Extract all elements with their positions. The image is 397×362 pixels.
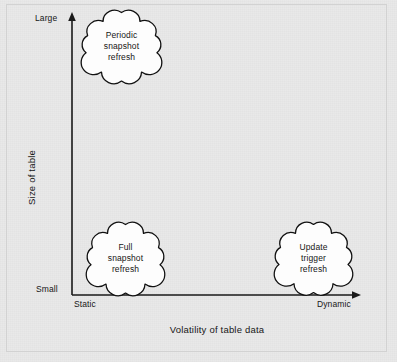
cloud-line-2: snapshot [88,253,163,264]
cloud-line-3: refresh [276,264,351,275]
y-axis-tick-large: Large [35,13,57,23]
cloud-line-1: Periodic [83,30,160,41]
cloud-line-2: snapshot [83,41,160,52]
cloud-label-periodic-snapshot-refresh: Periodic snapshot refresh [83,30,160,63]
x-axis-tick-dynamic: Dynamic [317,299,351,309]
y-axis-title: Size of table [26,128,37,228]
cloud-line-1: Full [88,242,163,253]
cloud-label-full-snapshot-refresh: Full snapshot refresh [88,242,163,275]
cloud-line-1: Update [276,242,351,253]
cloud-line-3: refresh [83,52,160,63]
cloud-line-2: trigger [276,253,351,264]
plot-area: Periodic snapshot refresh Full snapshot … [0,0,397,362]
diagram-figure: Periodic snapshot refresh Full snapshot … [0,0,397,362]
x-axis-tick-static: Static [74,299,96,309]
x-axis-title: Volatility of table data [72,324,362,335]
cloud-line-3: refresh [88,264,163,275]
cloud-label-update-trigger-refresh: Update trigger refresh [276,242,351,275]
y-axis-tick-small: Small [36,284,58,294]
